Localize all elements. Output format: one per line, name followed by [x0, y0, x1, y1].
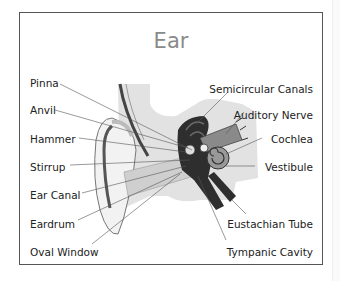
label-pinna: Pinna: [30, 77, 59, 89]
label-ear-canal: Ear Canal: [30, 189, 81, 201]
label-stirrup: Stirrup: [30, 161, 65, 173]
label-anvil: Anvil: [30, 104, 56, 116]
label-eustachian-tube: Eustachian Tube: [227, 218, 313, 230]
label-cochlea: Cochlea: [271, 133, 313, 145]
label-eardrum: Eardrum: [30, 218, 75, 230]
label-auditory-nerve: Auditory Nerve: [234, 109, 313, 121]
label-tympanic-cavity: Tympanic Cavity: [227, 246, 313, 258]
diagram-border: Ear Pinna Anvil Hammer Stirrup Ear Canal…: [19, 12, 323, 265]
label-vestibule: Vestibule: [265, 161, 313, 173]
diagram-title: Ear: [20, 29, 322, 53]
label-oval-window: Oval Window: [30, 246, 99, 258]
label-hammer: Hammer: [30, 133, 76, 145]
page-edge: [332, 0, 340, 281]
label-semicircular-canals: Semicircular Canals: [209, 83, 313, 95]
